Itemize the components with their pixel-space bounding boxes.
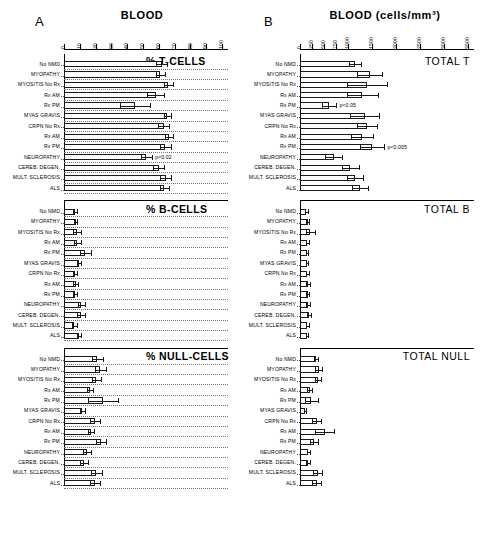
error-cap bbox=[77, 261, 78, 266]
panel-b-letter: B bbox=[264, 14, 273, 29]
error-cap bbox=[81, 230, 82, 235]
error-bar bbox=[357, 126, 376, 127]
data-bar bbox=[64, 123, 164, 129]
panel-a-tick-label: 90 bbox=[202, 43, 208, 49]
error-cap bbox=[87, 388, 88, 393]
error-cap bbox=[164, 113, 165, 118]
section-divider bbox=[64, 348, 228, 349]
error-cap bbox=[347, 175, 348, 180]
grid-line bbox=[64, 436, 228, 437]
error-cap bbox=[379, 113, 380, 118]
grid-line bbox=[64, 278, 228, 279]
error-cap bbox=[160, 186, 161, 191]
error-bar bbox=[158, 126, 169, 127]
grid-line bbox=[64, 141, 228, 142]
error-cap bbox=[360, 144, 361, 149]
error-bar bbox=[90, 483, 99, 484]
error-cap bbox=[73, 292, 74, 297]
row-label: Rx PM bbox=[280, 249, 296, 256]
row-label: No NMD bbox=[40, 60, 60, 67]
error-cap bbox=[77, 219, 78, 224]
row-label: CEREB. DEGEN. bbox=[18, 311, 60, 318]
grid-line bbox=[64, 405, 228, 406]
grid-line bbox=[64, 89, 228, 90]
panel-a-tick-label: 70 bbox=[171, 43, 177, 49]
error-cap bbox=[169, 186, 170, 191]
error-cap bbox=[318, 357, 319, 362]
error-cap bbox=[173, 82, 174, 87]
panel-b-tick-label: 1000 bbox=[344, 37, 350, 49]
row-label: Rx PM bbox=[44, 143, 60, 150]
row-label: MULT. SCLEROSIS bbox=[13, 321, 60, 328]
row-label: Rx AM bbox=[44, 280, 60, 287]
panel-a-tick-label: 80 bbox=[187, 43, 193, 49]
error-cap bbox=[306, 292, 307, 297]
error-bar bbox=[165, 137, 173, 138]
error-cap bbox=[165, 72, 166, 77]
row-label: Rx AM bbox=[44, 132, 60, 139]
grid-line bbox=[64, 69, 228, 70]
figure-canvas: ABBLOODBLOOD (cells/mm³)0102030405060708… bbox=[0, 0, 480, 533]
row-label: MULT. SCLEROSIS bbox=[249, 174, 296, 181]
row-label: Rx PM bbox=[44, 438, 60, 445]
grid-line bbox=[64, 395, 228, 396]
grid-line bbox=[64, 340, 228, 341]
error-cap bbox=[310, 460, 311, 465]
error-bar bbox=[160, 188, 169, 189]
panel-a-title: BLOOD bbox=[72, 9, 212, 21]
row-label: Rx AM bbox=[44, 427, 60, 434]
error-cap bbox=[152, 155, 153, 160]
section-title-1: % B-CELLS bbox=[146, 203, 207, 215]
error-cap bbox=[83, 450, 84, 455]
error-bar bbox=[153, 168, 164, 169]
grid-line bbox=[64, 330, 228, 331]
error-cap bbox=[310, 450, 311, 455]
panel-a-tick-label: 30 bbox=[108, 43, 114, 49]
error-bar bbox=[347, 178, 363, 179]
error-cap bbox=[314, 357, 315, 362]
error-bar bbox=[351, 137, 373, 138]
error-bar bbox=[141, 157, 152, 158]
error-bar bbox=[160, 147, 171, 148]
error-cap bbox=[90, 481, 91, 486]
row-label: Rx AM bbox=[44, 386, 60, 393]
row-label: MYOSITIS No Rx bbox=[18, 81, 60, 88]
error-cap bbox=[156, 72, 157, 77]
error-cap bbox=[77, 292, 78, 297]
error-cap bbox=[387, 82, 388, 87]
row-label: MYOPATHY bbox=[267, 218, 296, 225]
error-cap bbox=[93, 388, 94, 393]
error-bar bbox=[80, 463, 88, 464]
error-cap bbox=[165, 134, 166, 139]
error-bar bbox=[91, 473, 102, 474]
row-label: CRPN No Rx bbox=[28, 417, 60, 424]
panel-b-axis-line bbox=[300, 49, 474, 50]
error-cap bbox=[306, 250, 307, 255]
grid-line bbox=[64, 237, 228, 238]
error-cap bbox=[322, 103, 323, 108]
error-cap bbox=[309, 292, 310, 297]
error-cap bbox=[373, 134, 374, 139]
error-bar bbox=[352, 188, 368, 189]
error-cap bbox=[85, 408, 86, 413]
error-cap bbox=[91, 250, 92, 255]
error-cap bbox=[322, 470, 323, 475]
section-divider bbox=[64, 200, 228, 201]
error-cap bbox=[171, 113, 172, 118]
row-label: Rx AM bbox=[44, 91, 60, 98]
row-label: No NMD bbox=[40, 355, 60, 362]
grid-line bbox=[64, 247, 228, 248]
grid-line bbox=[64, 110, 228, 111]
error-cap bbox=[73, 230, 74, 235]
row-label: MYOSITIS No Rx bbox=[254, 81, 296, 88]
row-label: CRPN No Rx bbox=[28, 270, 60, 277]
row-label: NEUROPATHY bbox=[24, 153, 60, 160]
error-cap bbox=[78, 282, 79, 287]
error-bar bbox=[360, 147, 384, 148]
grid-line bbox=[64, 183, 228, 184]
error-bar bbox=[83, 452, 91, 453]
row-label: CRPN No Rx bbox=[264, 417, 296, 424]
error-cap bbox=[357, 72, 358, 77]
error-bar bbox=[312, 483, 321, 484]
error-cap bbox=[307, 313, 308, 318]
